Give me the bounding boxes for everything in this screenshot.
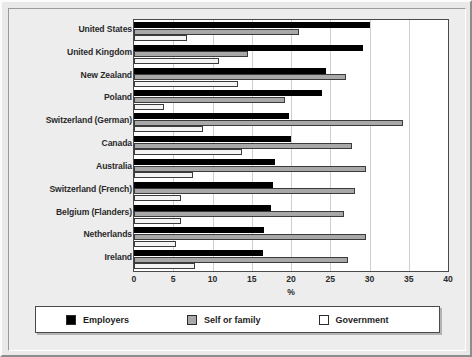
bar-employers [134, 45, 363, 51]
legend-label: Government [336, 315, 389, 325]
x-tick-label: 20 [286, 274, 296, 284]
bar-gov [134, 58, 219, 64]
bar-group [134, 180, 448, 203]
category-label: Netherlands [14, 229, 132, 239]
bar-gov [134, 104, 164, 110]
bar-group [134, 157, 448, 180]
bar-employers [134, 136, 291, 142]
bar-group [134, 111, 448, 134]
bar-group [134, 203, 448, 226]
bar-employers [134, 90, 322, 96]
category-axis-labels: United StatesUnited KingdomNew ZealandPo… [14, 20, 132, 272]
category-label: Poland [14, 92, 132, 102]
legend-label: Employers [83, 315, 129, 325]
plot-area [133, 19, 449, 272]
bar-gov [134, 81, 238, 87]
x-tick-label: 5 [171, 274, 176, 284]
bar-employers [134, 250, 263, 256]
bar-group [134, 134, 448, 157]
category-label: Switzerland (French) [14, 184, 132, 194]
bar-self [134, 257, 348, 263]
x-tick-label: 10 [208, 274, 218, 284]
bar-employers [134, 22, 370, 28]
x-tick-label: 0 [132, 274, 137, 284]
bar-group [134, 248, 448, 271]
category-label: United States [14, 24, 132, 34]
legend-item: Government [319, 315, 389, 325]
category-label: Ireland [14, 252, 132, 262]
black-swatch [66, 315, 76, 325]
bar-self [134, 74, 346, 80]
bar-employers [134, 205, 271, 211]
bar-gov [134, 218, 181, 224]
bar-group [134, 43, 448, 66]
bar-employers [134, 113, 289, 119]
bar-gov [134, 241, 176, 247]
bar-series-container [134, 20, 448, 271]
bar-group [134, 66, 448, 89]
bar-group [134, 88, 448, 111]
bar-self [134, 97, 285, 103]
category-label: United Kingdom [14, 47, 132, 57]
bar-self [134, 120, 403, 126]
category-label: Belgium (Flanders) [14, 207, 132, 217]
x-axis-label: % [133, 287, 449, 297]
x-tick-label: 25 [325, 274, 335, 284]
x-tick-label: 35 [404, 274, 414, 284]
x-axis-ticks: 0510152025303540 [133, 274, 449, 288]
bar-self [134, 188, 355, 194]
bar-gov [134, 35, 187, 41]
category-label: Australia [14, 161, 132, 171]
legend-item: Employers [66, 315, 129, 325]
bar-self [134, 143, 352, 149]
bar-gov [134, 195, 181, 201]
white-swatch [319, 315, 329, 325]
bar-employers [134, 159, 275, 165]
x-tick-label: 15 [247, 274, 257, 284]
bar-gov [134, 172, 193, 178]
chart-figure: United StatesUnited KingdomNew ZealandPo… [0, 0, 472, 357]
bar-group [134, 20, 448, 43]
bar-gov [134, 126, 203, 132]
category-label: Switzerland (German) [14, 115, 132, 125]
bar-gov [134, 149, 242, 155]
chart-legend: EmployersSelf or familyGovernment [35, 306, 440, 333]
category-label: Canada [14, 138, 132, 148]
x-tick-label: 40 [443, 274, 453, 284]
bar-self [134, 29, 299, 35]
bar-employers [134, 227, 264, 233]
bar-self [134, 166, 366, 172]
legend-label: Self or family [204, 315, 261, 325]
bar-group [134, 225, 448, 248]
bar-self [134, 234, 366, 240]
gray-swatch [187, 315, 197, 325]
category-label: New Zealand [14, 70, 132, 80]
bar-self [134, 51, 248, 57]
bar-self [134, 211, 344, 217]
bar-gov [134, 263, 195, 269]
legend-item: Self or family [187, 315, 261, 325]
bar-employers [134, 182, 273, 188]
x-tick-label: 30 [365, 274, 375, 284]
bar-employers [134, 68, 326, 74]
